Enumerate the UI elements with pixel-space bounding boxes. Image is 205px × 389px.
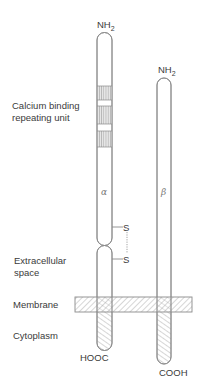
protein-diagram: NH2 NH2 [0,0,205,389]
calcium-binding-label-line1: Calcium binding [12,100,80,111]
sulfur-top: S [123,222,129,233]
beta-chain [157,78,171,367]
svg-text:NH2: NH2 [158,64,176,77]
calcium-binding-label-line2: repeating unit [12,112,70,123]
disulfide-bond: S S [112,222,129,265]
cytoplasm-label: Cytoplasm [13,330,58,341]
alpha-label: α [101,187,107,197]
alpha-n-terminus-label: NH2 [97,19,115,32]
extracellular-label-line1: Extracellular [14,255,66,266]
beta-label: β [160,187,166,197]
svg-text:NH2: NH2 [97,19,115,32]
membrane-label: Membrane [13,299,58,310]
membrane-band [75,297,192,312]
beta-c-terminus-label: COOH [159,367,188,378]
alpha-chain-upper [97,33,112,246]
alpha-c-terminus-label: HOOC [80,352,109,363]
extracellular-label-line2: space [14,267,39,278]
sulfur-bottom: S [123,254,129,265]
calcium-binding-bands [97,86,112,147]
beta-n-terminus-label: NH2 [158,64,176,77]
